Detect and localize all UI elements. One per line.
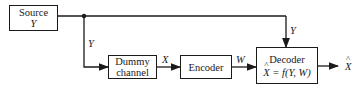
- decoder-equation: X = f(Y, W): [263, 67, 311, 78]
- dummy-channel-line2: channel: [116, 67, 149, 78]
- edge-label-x: X: [162, 54, 168, 65]
- encoder-block: Encoder: [180, 55, 232, 79]
- edge-label-w: W: [236, 54, 245, 65]
- dummy-channel-line1: Dummy: [115, 56, 149, 67]
- decoder-block: Decoder X = f(Y, W): [256, 47, 318, 84]
- dummy-channel-block: Dummy channel: [108, 55, 157, 79]
- source-variable: Y: [31, 18, 37, 29]
- source-block: Source Y: [9, 5, 58, 31]
- source-title: Source: [19, 7, 48, 18]
- edge-label-y-to-dummy: Y: [88, 38, 94, 49]
- decoder-title: Decoder: [269, 54, 305, 65]
- output-label-xhat: X: [345, 61, 351, 72]
- decoder-eq-lhs: X: [263, 67, 269, 78]
- edge-label-y-to-decoder: Y: [290, 25, 296, 36]
- decoder-eq-rhs: = f(Y, W): [272, 67, 311, 78]
- encoder-title: Encoder: [189, 62, 224, 73]
